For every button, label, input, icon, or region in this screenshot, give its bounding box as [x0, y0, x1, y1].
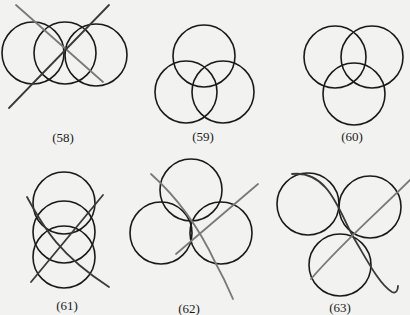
- circle: [323, 63, 385, 125]
- circle: [33, 172, 95, 234]
- circle: [173, 25, 235, 87]
- figure-60: (60): [304, 26, 403, 144]
- circle: [192, 61, 254, 123]
- circle: [304, 26, 366, 88]
- figure-label: (58): [52, 130, 74, 145]
- figure-62: (62): [130, 159, 258, 315]
- circle: [341, 26, 403, 88]
- stroke-line: [27, 197, 109, 287]
- figure-label: (59): [192, 129, 214, 144]
- circle: [2, 22, 64, 84]
- circle: [33, 201, 95, 263]
- figure-63: (63): [277, 173, 410, 315]
- figure-label: (61): [56, 298, 78, 313]
- circle: [33, 226, 95, 288]
- circle: [277, 173, 339, 235]
- figure-59: (59): [155, 25, 254, 144]
- figure-label: (63): [329, 300, 351, 315]
- figure-label: (62): [178, 301, 200, 315]
- figure-canvas: (58) (59) (60) (61) (62): [0, 0, 410, 315]
- figure-61: (61): [27, 172, 109, 313]
- figure-label: (60): [341, 129, 363, 144]
- stroke-line: [292, 174, 398, 293]
- circle: [130, 202, 192, 264]
- circle: [309, 234, 371, 296]
- figure-58: (58): [2, 5, 127, 145]
- stroke-line: [9, 5, 109, 108]
- circle: [155, 61, 217, 123]
- circle: [160, 159, 222, 221]
